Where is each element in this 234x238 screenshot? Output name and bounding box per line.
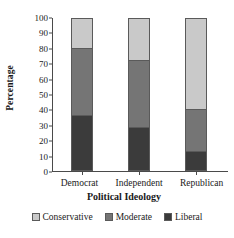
x-axis-title: Political Ideology [18,191,230,202]
y-tick-label: 70 [39,60,52,69]
bar-group [53,18,224,171]
legend-swatch-liberal [164,213,172,221]
x-tick-label-independent: Independent [116,178,163,188]
plot-area: 1009080706050403020100 [18,10,230,175]
y-tick-label: 60 [39,75,52,84]
legend-label: Liberal [175,212,202,222]
bar-segment-moderate[interactable] [129,61,149,127]
x-tick-label-republican: Republican [180,178,223,188]
legend-swatch-conservative [32,213,40,221]
bar-segment-moderate[interactable] [72,49,92,115]
y-tick-label: 30 [39,121,52,130]
x-axis-tick-labels: DemocratIndependentRepublican [52,178,232,188]
y-tick-label: 100 [35,14,53,23]
y-tick-label: 50 [39,91,52,100]
bar-segment-conservative[interactable] [186,19,206,110]
y-tick-label: 10 [39,152,52,161]
bar-segment-conservative[interactable] [72,19,92,49]
legend-item-conservative[interactable]: Conservative [32,212,93,222]
bar-column-republican[interactable] [185,18,207,171]
y-tick-label: 80 [39,44,52,53]
legend-label: Moderate [116,212,152,222]
x-tick-mark [139,172,140,176]
bar-segment-moderate[interactable] [186,110,206,152]
bar-stack [71,18,93,171]
legend-item-liberal[interactable]: Liberal [164,212,202,222]
bar-stack [128,18,150,171]
y-tick-label: 0 [44,168,53,177]
bar-column-democrat[interactable] [71,18,93,171]
x-tick-label-democrat: Democrat [61,178,98,188]
bar-column-independent[interactable] [128,18,150,171]
bar-segment-liberal[interactable] [129,128,149,170]
chart-legend: ConservativeModerateLiberal [0,212,234,222]
stacked-bar-chart: Percentage 1009080706050403020100 Democr… [0,0,234,238]
x-tick-mark [196,172,197,176]
legend-label: Conservative [43,212,93,222]
bar-segment-liberal[interactable] [72,116,92,170]
y-tick-label: 40 [39,106,52,115]
bar-stack [185,18,207,171]
y-tick-label: 20 [39,137,52,146]
x-tick-mark [82,172,83,176]
x-axis-line [52,171,228,172]
legend-swatch-moderate [105,213,113,221]
bar-segment-conservative[interactable] [129,19,149,61]
bar-segment-liberal[interactable] [186,152,206,170]
y-tick-label: 90 [39,29,52,38]
axes: 1009080706050403020100 [52,18,224,172]
legend-item-moderate[interactable]: Moderate [105,212,152,222]
y-axis-title: Percentage [2,0,18,175]
